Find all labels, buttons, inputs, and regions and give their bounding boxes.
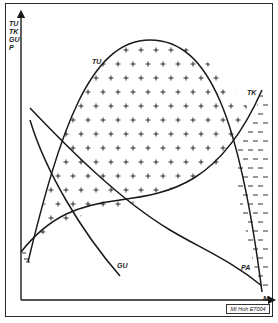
gu-label: GU — [117, 262, 128, 269]
tk-label: TK — [247, 89, 257, 96]
tu-curve — [28, 40, 262, 292]
economics-diagram: TU TK GU PA M — [0, 0, 278, 323]
x-axis-label: M — [263, 295, 269, 302]
pa-label: PA — [241, 264, 250, 271]
reference-code: MI Hoh E7004 — [226, 304, 270, 314]
gu-curve — [30, 120, 120, 276]
positive-region-hatch — [34, 48, 249, 235]
tu-label: TU — [92, 58, 102, 65]
negative-region-hatch-right — [238, 96, 268, 285]
